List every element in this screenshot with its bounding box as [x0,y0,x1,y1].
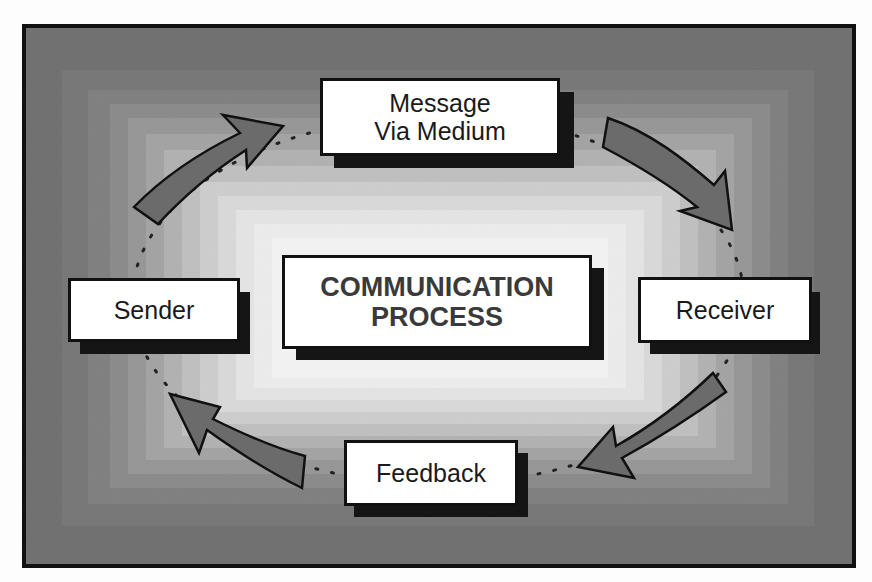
title-line2: PROCESS [320,302,553,332]
feedback-label: Feedback [376,459,486,487]
receiver-label: Receiver [676,296,775,324]
communication-process-diagram: Message Via Medium COMMUNICATION PROCESS… [0,0,872,582]
node-receiver: Receiver [638,277,812,343]
node-sender: Sender [68,278,240,342]
node-feedback: Feedback [344,440,518,506]
node-communication-process: COMMUNICATION PROCESS [282,255,592,349]
title-line1: COMMUNICATION [320,272,553,302]
message-line2: Via Medium [374,117,506,145]
message-line1: Message [374,89,506,117]
sender-label: Sender [114,296,195,324]
node-message-via-medium: Message Via Medium [320,78,560,156]
